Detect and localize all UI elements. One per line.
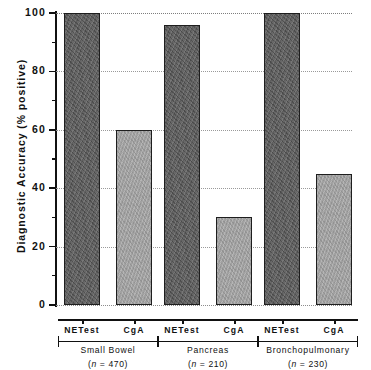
- group-label-bronchopulmonary: Bronchopulmonary: [248, 345, 368, 355]
- plot-area: 020406080100: [56, 13, 352, 305]
- x-axis-scale: NETestCgASmall Bowel(n = 470)NETestCgAPa…: [56, 319, 352, 370]
- y-tick-label-80: 80: [2, 64, 46, 76]
- bar-chart-figure: Diagnostic Accuracy (% positive) 0204060…: [0, 0, 371, 370]
- gridline-100: [56, 13, 352, 14]
- y-tick-60: [49, 129, 56, 131]
- y-minor-tick-70: [52, 100, 56, 101]
- series-tick-3-2: [334, 319, 336, 324]
- group-bracket-2: [158, 341, 258, 342]
- group-bracket-1: [58, 341, 158, 342]
- y-minor-tick-10: [52, 275, 56, 276]
- series-tick-2-2: [234, 319, 236, 324]
- gridline-60: [56, 130, 352, 131]
- bar-small-bowel-netest: [64, 13, 100, 305]
- series-label-netest-1: NETest: [52, 325, 112, 335]
- y-minor-tick-30: [52, 217, 56, 218]
- gridline-0: [56, 305, 352, 306]
- y-tick-40: [49, 187, 56, 189]
- gridline-80: [56, 71, 352, 72]
- y-tick-0: [49, 304, 56, 306]
- y-tick-label-60: 60: [2, 123, 46, 135]
- group-bracket-3: [258, 341, 358, 342]
- series-tick-2-1: [182, 319, 184, 324]
- bar-small-bowel-cga: [116, 130, 152, 305]
- y-tick-20: [49, 246, 56, 248]
- gridline-20: [56, 247, 352, 248]
- bar-bronchopulmonary-cga: [316, 174, 352, 305]
- series-tick-1-2: [134, 319, 136, 324]
- y-tick-label-0: 0: [2, 298, 46, 310]
- y-tick-100: [49, 12, 56, 14]
- series-rule-3: [258, 319, 358, 321]
- y-minor-tick-90: [52, 42, 56, 43]
- series-label-netest-2: NETest: [152, 325, 212, 335]
- y-tick-80: [49, 71, 56, 73]
- series-tick-1-1: [82, 319, 84, 324]
- bar-pancreas-cga: [216, 217, 252, 305]
- bar-pancreas-netest: [164, 25, 200, 305]
- series-rule-2: [158, 319, 258, 321]
- y-tick-label-40: 40: [2, 181, 46, 193]
- gridline-40: [56, 188, 352, 189]
- caption-cutoff: [0, 364, 371, 370]
- y-minor-tick-50: [52, 158, 56, 159]
- y-tick-label-20: 20: [2, 240, 46, 252]
- y-tick-label-100: 100: [2, 6, 46, 18]
- series-rule-1: [58, 319, 158, 321]
- series-label-netest-3: NETest: [252, 325, 312, 335]
- series-label-cga-3: CgA: [304, 325, 364, 335]
- series-tick-3-1: [282, 319, 284, 324]
- bar-bronchopulmonary-netest: [264, 13, 300, 305]
